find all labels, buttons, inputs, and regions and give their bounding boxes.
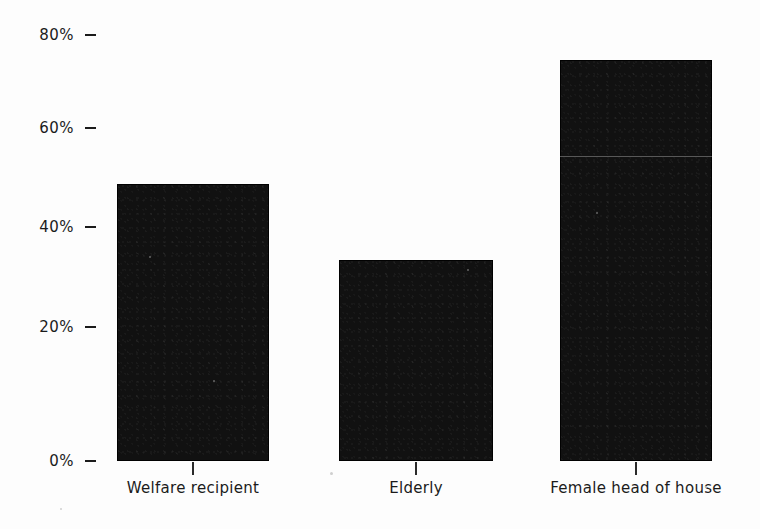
page-speck [705,486,707,488]
y-axis-tick-0: 0% [28,451,96,471]
y-axis-tick-label-40: 40% [39,217,74,237]
bar-elderly [339,260,493,461]
y-axis-tick-dash-80 [85,34,96,36]
y-axis-tick-40: 40% [28,217,96,237]
scan-speck [213,380,215,382]
scan-speck [149,256,151,258]
y-axis-tick-dash-20 [85,326,96,328]
bar-female-head-of-house [560,60,712,461]
x-axis-tick-welfare-recipient [192,462,194,475]
y-axis-tick-label-80: 80% [39,25,74,45]
x-axis-tick-female-head-of-house [635,462,637,475]
y-axis-tick-60: 60% [28,118,96,138]
x-axis-label-female-head-of-house: Female head of house [550,479,722,497]
y-axis-tick-label-20: 20% [39,317,74,337]
x-axis-label-elderly: Elderly [389,479,443,497]
scan-speck [467,269,469,271]
y-axis-tick-dash-0 [85,460,96,462]
y-axis-tick-dash-60 [85,127,96,129]
y-axis-tick-dash-40 [85,226,96,228]
x-axis-tick-elderly [415,462,417,475]
bar-welfare-recipient [117,184,269,461]
scan-speck [596,212,598,214]
page-speck [60,508,62,510]
page-speck [330,472,333,475]
chart-page: 80% 60% 40% 20% 0% [0,0,760,529]
y-axis-tick-label-60: 60% [39,118,74,138]
x-axis-label-welfare-recipient: Welfare recipient [127,479,260,497]
y-axis-tick-label-0: 0% [49,451,74,471]
bar-chart-plot-area: 80% 60% 40% 20% 0% [0,0,760,529]
y-axis-tick-80: 80% [28,25,96,45]
y-axis-tick-20: 20% [28,317,96,337]
scan-line-artifact [560,156,712,157]
